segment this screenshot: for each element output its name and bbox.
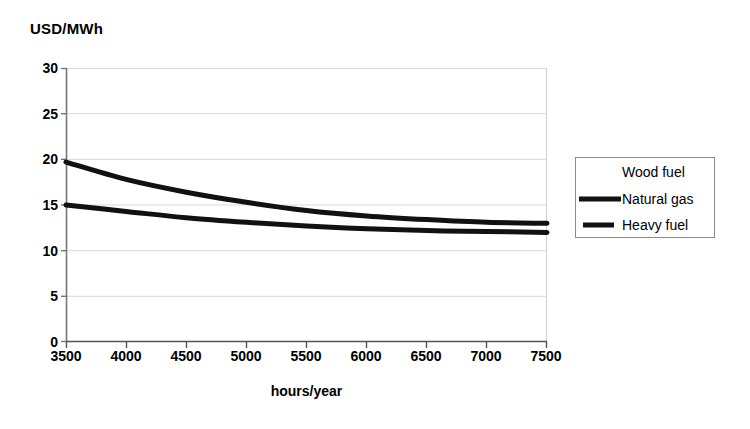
plot-canvas — [66, 68, 547, 342]
x-axis-tick-labels: 3500 4000 4500 5000 5500 6000 6500 7000 … — [0, 349, 750, 371]
legend-label: Natural gas — [622, 192, 694, 206]
y-tick-label: 25 — [12, 107, 58, 121]
x-tick-label: 7500 — [530, 349, 561, 363]
legend-label: Heavy fuel — [622, 218, 688, 232]
chart-legend: Wood fuel Natural gas Heavy fuel — [575, 157, 715, 238]
legend-label: Wood fuel — [622, 165, 685, 179]
y-tick-label: 5 — [12, 289, 58, 303]
legend-line-swatch-wood-fuel — [576, 158, 622, 185]
legend-line-swatch-heavy-fuel — [576, 211, 622, 238]
legend-line-swatch-natural-gas — [576, 185, 622, 212]
data-series-group — [66, 162, 547, 232]
x-tick-label: 4000 — [110, 349, 141, 363]
x-tick-label: 6000 — [350, 349, 381, 363]
legend-entry-natural-gas: Natural gas — [576, 185, 716, 212]
y-tick-label: 30 — [12, 61, 58, 75]
legend-entry-wood-fuel: Wood fuel — [576, 158, 716, 185]
plot-area — [66, 68, 547, 342]
x-tick-label: 5000 — [230, 349, 261, 363]
x-tick-label: 4500 — [170, 349, 201, 363]
x-tick-label: 3500 — [50, 349, 81, 363]
y-tick-label: 10 — [12, 244, 58, 258]
chart-figure: USD/MWh 30 25 20 15 10 5 0 — [0, 0, 750, 429]
x-tick-label: 5500 — [290, 349, 321, 363]
legend-entry-heavy-fuel: Heavy fuel — [576, 211, 716, 238]
y-tick-label: 0 — [12, 335, 58, 349]
x-axis-title: hours/year — [66, 383, 547, 399]
x-tick-label: 7000 — [470, 349, 501, 363]
y-tick-label: 15 — [12, 198, 58, 212]
y-tick-label: 20 — [12, 152, 58, 166]
x-tick-label: 6500 — [410, 349, 441, 363]
